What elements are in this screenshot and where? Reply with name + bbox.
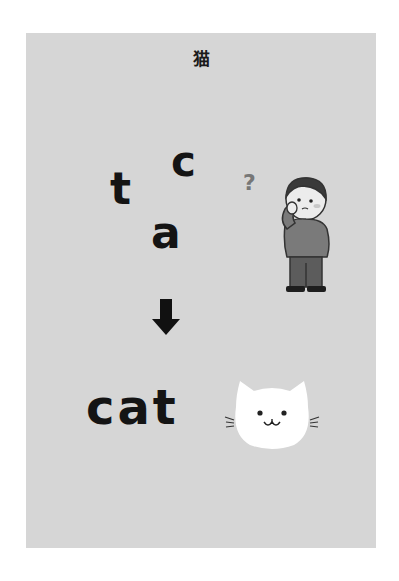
- card-title: 猫: [26, 45, 376, 70]
- thinking-person-icon: [273, 173, 339, 298]
- arrow-down-icon: [152, 299, 182, 337]
- flashcard: 猫 t c a ? cat: [26, 33, 376, 548]
- scrambled-letter-a: a: [151, 211, 181, 255]
- question-mark: ?: [243, 170, 256, 195]
- answer-word: cat: [86, 383, 179, 431]
- cat-face-icon: [222, 373, 322, 453]
- scrambled-letter-c: c: [171, 141, 196, 183]
- scrambled-letter-t: t: [110, 167, 131, 211]
